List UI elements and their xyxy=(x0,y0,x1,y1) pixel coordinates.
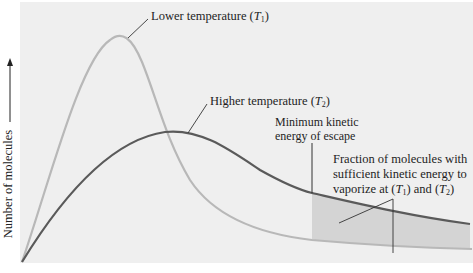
lower-temp-close: ) xyxy=(265,9,269,23)
higher-temp-symbol: T xyxy=(315,94,322,108)
fraction-line-2: sufficient kinetic energy to xyxy=(333,167,467,182)
minimum-kinetic-energy-label: Minimum kinetic energy of escape xyxy=(275,115,359,143)
fraction-line-3: vaporize at (T1) and (T2) xyxy=(333,182,467,200)
lower-temp-text: Lower temperature ( xyxy=(151,9,254,23)
y-axis-label: Number of molecules xyxy=(1,104,17,264)
kinetic-energy-distribution-chart: Number of molecules Lower temperature (T… xyxy=(0,0,473,273)
higher-temp-close: ) xyxy=(326,94,330,108)
min-ke-line-2: energy of escape xyxy=(275,129,359,143)
fraction-label: Fraction of molecules with sufficient ki… xyxy=(333,152,467,200)
fraction-line-3-text: vaporize at ( xyxy=(333,182,395,196)
fraction-close: ) xyxy=(450,182,454,196)
fraction-mid-text: ) and ( xyxy=(406,182,439,196)
lower-temperature-label: Lower temperature (T1) xyxy=(151,9,269,27)
min-ke-line-1: Minimum kinetic xyxy=(275,115,359,129)
chart-canvas xyxy=(0,0,473,273)
lower-temp-symbol: T xyxy=(254,9,261,23)
fraction-t2-symbol: T xyxy=(439,182,446,196)
higher-temperature-label: Higher temperature (T2) xyxy=(210,94,330,112)
fraction-line-1: Fraction of molecules with xyxy=(333,152,467,167)
higher-temp-text: Higher temperature ( xyxy=(210,94,315,108)
up-arrow-icon xyxy=(7,58,13,66)
